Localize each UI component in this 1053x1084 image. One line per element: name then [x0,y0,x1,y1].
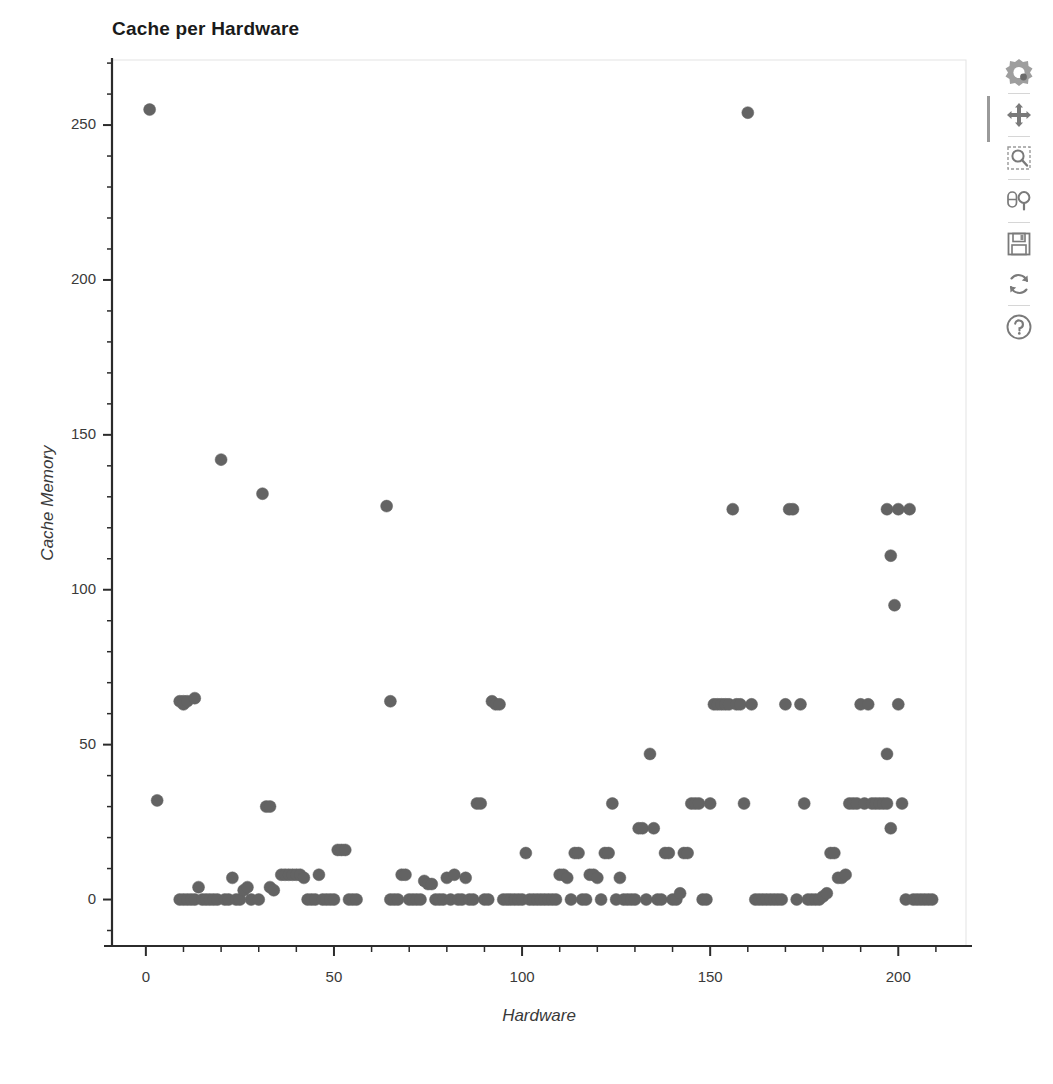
y-tick-label: 200 [71,270,96,287]
box-zoom-tool-icon[interactable] [999,138,1039,178]
x-tick-label: 50 [294,968,374,985]
plot-frame [104,58,972,946]
toolbar-separator [1008,136,1030,137]
help-tool-icon[interactable] [999,307,1039,347]
scatter-plot-svg[interactable] [0,0,1053,1084]
bokeh-logo-icon [999,52,1039,92]
toolbar-separator [1008,93,1030,94]
save-tool-icon[interactable] [999,224,1039,264]
active-tool-indicator [987,96,990,142]
y-tick-label: 100 [71,580,96,597]
plot-toolbar[interactable] [993,52,1045,347]
chart-figure: Cache per Hardware 050100150200250050100… [0,0,1053,1084]
x-tick-label: 100 [482,968,562,985]
pan-tool-icon[interactable] [999,95,1039,135]
x-axis-label: Hardware [439,1006,639,1026]
x-tick-label: 200 [858,968,938,985]
y-tick-label: 150 [71,425,96,442]
x-tick-label: 0 [106,968,186,985]
toolbar-separator [1008,179,1030,180]
y-axis-label: Cache Memory [38,445,58,560]
reset-tool-icon[interactable] [999,264,1039,304]
y-tick-label: 0 [88,890,96,907]
wheel-zoom-tool-icon[interactable] [999,181,1039,221]
x-tick-label: 150 [670,968,750,985]
y-tick-label: 250 [71,115,96,132]
toolbar-separator [1008,305,1030,306]
toolbar-separator [1008,222,1030,223]
y-tick-label: 50 [79,735,96,752]
plot-canvas[interactable]: 050100150200250050100150200 [0,0,1053,1084]
